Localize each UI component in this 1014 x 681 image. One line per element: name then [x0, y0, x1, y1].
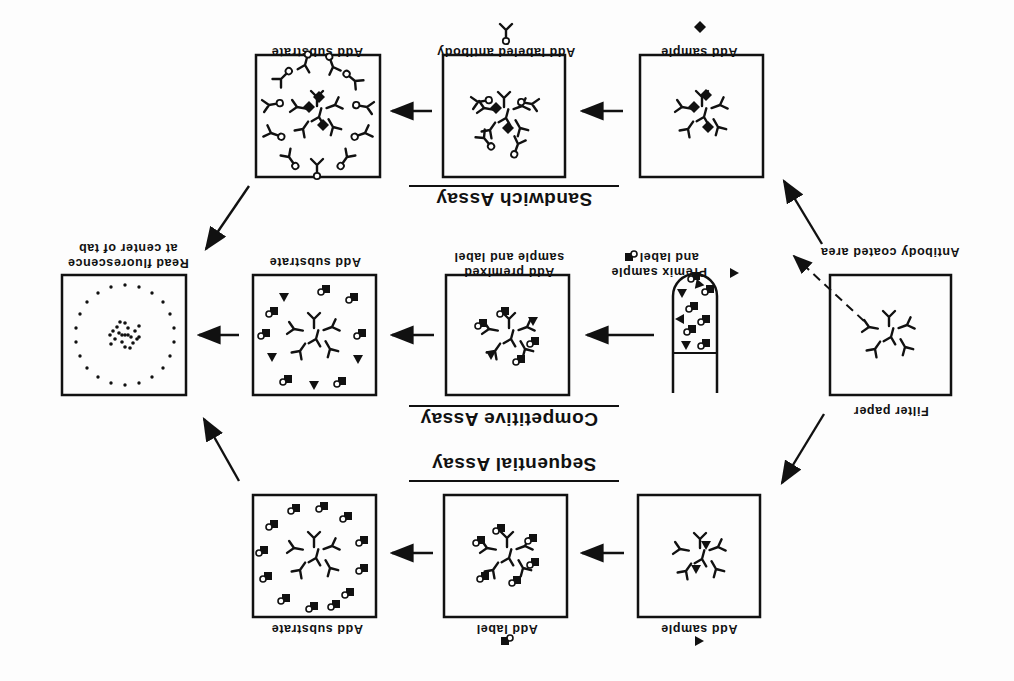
seq-step2-box — [444, 495, 567, 617]
sequential-assay-title: Sequential Assay — [432, 454, 597, 475]
labeled-antibody-icon — [500, 24, 512, 44]
sandwich-step3-box — [256, 55, 380, 177]
fluorescence-dots — [74, 283, 175, 386]
competitive-assay-title-visible: Competitive Assay — [420, 409, 598, 430]
seq-add-substrate-label: Add substrate — [271, 622, 363, 636]
sandwich-assay-title: Sandwich Assay — [436, 189, 592, 210]
comp-add-premixed-label-2: sample and label — [454, 250, 564, 264]
comp-premix-label-2: and label — [639, 250, 699, 264]
diamond-antigen-icon — [694, 21, 706, 33]
arrow-from-sequential — [204, 419, 239, 481]
sandwich-add-sample-label: Add sample — [661, 45, 738, 59]
comp-add-substrate-label: Add substrate — [269, 255, 361, 269]
comp-add-premixed-label-1: Add premixed — [464, 265, 555, 279]
competitive-assay: Premix sample and label Add premixed sam… — [199, 250, 739, 406]
arrow-to-sequential — [782, 414, 824, 483]
labeled-antigen-icon — [625, 251, 637, 261]
seq-add-label-label: Add label — [476, 622, 538, 636]
read-fluorescence-step: Read fluorescence at center of tab — [62, 241, 189, 395]
filter-paper-step: Filter paper Antibody coated area — [794, 245, 960, 418]
comp-step2-box — [446, 275, 569, 395]
read-fluorescence-label-2: at center of tab — [78, 241, 177, 255]
seq-step3-box — [253, 495, 376, 617]
antibody-coated-area-label: Antibody coated area — [820, 245, 960, 259]
sandwich-add-substrate-label: Add substrate — [271, 45, 363, 59]
sequential-assay: Add sample Add label Add substrate — [253, 454, 760, 646]
sandwich-add-labeled-antibody-label: Add labeled antibody — [437, 45, 575, 59]
immunoassay-diagram: Filter paper Antibody coated area Add sa… — [0, 0, 1014, 681]
arrow-to-sandwich — [784, 181, 822, 244]
triangle-antigen-icon — [730, 268, 739, 278]
filter-paper-label: Filter paper — [853, 404, 928, 418]
seq-step1-box — [638, 495, 760, 617]
arrow-from-sandwich — [206, 186, 249, 249]
sandwich-step2-box — [443, 55, 565, 177]
read-fluorescence-label-1: Read fluorescence — [67, 256, 188, 270]
triangle-antigen-icon — [695, 636, 704, 646]
sandwich-assay: Sandwich Assay Add sample Add labeled an… — [256, 21, 763, 210]
seq-add-sample-label: Add sample — [661, 622, 738, 636]
antibody-cluster-icon — [862, 311, 915, 357]
labeled-antigen-icon — [501, 635, 513, 645]
sandwich-step1-box — [640, 55, 763, 177]
